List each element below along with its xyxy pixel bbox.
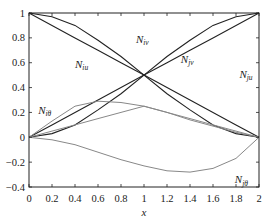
curve-aux-6 [29,106,259,137]
x-tick-label: 1.6 [206,193,219,204]
x-axis-label: x [141,206,147,218]
curve-label: Njv [180,53,194,68]
chart: 00.20.40.60.811.21.41.61.82 −0.4−0.200.2… [0,0,267,220]
x-tick-label: 1 [141,193,146,204]
curve-label: Niv [135,33,149,48]
y-tick-label: 0.8 [12,32,25,43]
y-tick-label: 0 [20,132,25,143]
x-tick-label: 2 [256,193,261,204]
y-tick-label: 0.2 [12,107,25,118]
y-tick-label: 1 [20,8,25,19]
x-tick-label: 0.6 [91,193,104,204]
y-tick-label: 0.6 [12,57,25,68]
x-tick-label: 0.8 [114,193,127,204]
x-tick-label: 0.2 [45,193,58,204]
x-tick-label: 1.4 [183,193,197,204]
curve-j-5 [29,137,259,172]
x-tick-label: 1.8 [229,193,242,204]
x-tick-label: 0.4 [68,193,82,204]
curve-label: Nju [238,68,252,83]
y-tick-label: −0.4 [6,182,26,193]
curve-label: Niu [74,58,88,73]
x-tick-label: 1.2 [160,193,173,204]
curve-label: Niθ [37,104,51,119]
x-tick-label: 0 [26,193,31,204]
y-tick-label: −0.2 [6,157,25,168]
y-tick-label: 0.4 [12,82,26,93]
plot-curves [29,13,259,172]
